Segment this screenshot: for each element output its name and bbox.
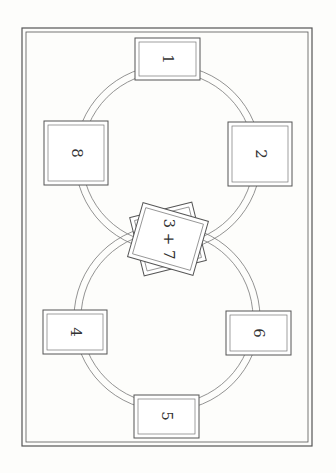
- card-2-label: 2: [252, 149, 270, 159]
- card-3-7-label: 3 + 7: [160, 218, 178, 259]
- card-3-over: 3 + 7: [128, 203, 209, 276]
- card-5: 5: [134, 395, 199, 438]
- card-6: 6: [226, 311, 291, 355]
- card-6-label: 6: [250, 328, 268, 338]
- card-8: 8: [44, 121, 108, 185]
- card-1: 1: [135, 38, 200, 80]
- card-5-label: 5: [158, 411, 176, 421]
- card-8-label: 8: [68, 148, 86, 158]
- card-1-label: 1: [159, 54, 177, 64]
- spread-diagram: 1 8 2 3 + 7 4 6 5: [0, 0, 336, 473]
- card-2: 2: [228, 122, 292, 186]
- card-4-label: 4: [67, 327, 85, 337]
- card-4: 4: [43, 310, 107, 354]
